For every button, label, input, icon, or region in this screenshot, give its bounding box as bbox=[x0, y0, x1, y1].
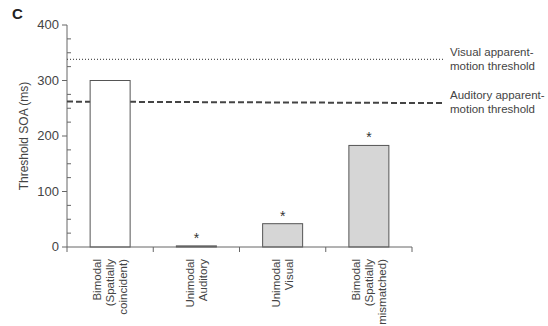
significance-marker: * bbox=[366, 129, 372, 145]
svg-text:mismatched): mismatched) bbox=[376, 259, 388, 325]
bar: * bbox=[176, 230, 216, 247]
bar: * bbox=[349, 129, 389, 247]
threshold-label: motion threshold bbox=[450, 60, 535, 72]
y-tick-label: 300 bbox=[37, 73, 59, 88]
dotted-threshold-line: Visual apparent-motion threshold bbox=[67, 46, 535, 72]
bar: * bbox=[263, 208, 303, 247]
threshold-label: Auditory apparent- bbox=[450, 89, 545, 101]
reference-lines: Visual apparent-motion thresholdAuditory… bbox=[67, 46, 545, 114]
y-axis-label: Threshold SOA (ms) bbox=[17, 82, 31, 191]
y-axis: 0100200300400 bbox=[37, 17, 71, 254]
svg-text:coincident): coincident) bbox=[117, 259, 129, 315]
y-tick-label: 0 bbox=[52, 239, 59, 254]
svg-text:(Spatially: (Spatially bbox=[104, 259, 116, 307]
y-tick-label: 200 bbox=[37, 128, 59, 143]
x-category-label: UnimodalVisual bbox=[270, 259, 295, 308]
bar-chart: C 0100200300400 Threshold SOA (ms) Visua… bbox=[0, 0, 548, 326]
x-category-label: Bimodal(Spatiallycoincident) bbox=[91, 259, 129, 315]
significance-marker: * bbox=[280, 208, 286, 224]
y-tick-label: 400 bbox=[37, 17, 59, 32]
svg-text:(Spatially: (Spatially bbox=[363, 259, 375, 307]
bar bbox=[90, 81, 130, 248]
svg-text:Unimodal: Unimodal bbox=[184, 259, 196, 308]
panel-label: C bbox=[12, 5, 23, 22]
svg-text:Visual: Visual bbox=[283, 259, 295, 290]
bars: *** bbox=[90, 81, 389, 248]
x-category-label: Bimodal(Spatiallymismatched) bbox=[350, 259, 388, 325]
significance-marker: * bbox=[194, 230, 200, 246]
svg-text:Threshold SOA (ms): Threshold SOA (ms) bbox=[17, 82, 31, 191]
svg-text:Bimodal: Bimodal bbox=[91, 259, 103, 301]
svg-text:Auditory: Auditory bbox=[197, 259, 209, 301]
x-category-label: UnimodalAuditory bbox=[184, 259, 209, 308]
threshold-label: Visual apparent- bbox=[450, 46, 534, 58]
x-axis: Bimodal(Spatiallycoincident)UnimodalAudi… bbox=[67, 247, 412, 325]
threshold-label: motion threshold bbox=[450, 103, 535, 115]
dashed-threshold-line: Auditory apparent-motion threshold bbox=[67, 89, 545, 115]
svg-text:Bimodal: Bimodal bbox=[350, 259, 362, 301]
y-tick-label: 100 bbox=[37, 184, 59, 199]
svg-text:Unimodal: Unimodal bbox=[270, 259, 282, 308]
